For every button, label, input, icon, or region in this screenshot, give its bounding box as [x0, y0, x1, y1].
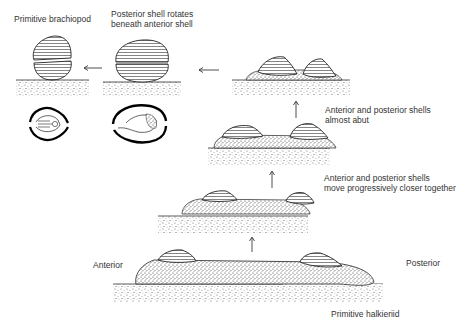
label-rotates-line1: Posterior shell rotates: [111, 9, 193, 19]
label-closer-line1: Anterior and posterior shells: [324, 173, 430, 183]
brachiopod-side-view: [16, 36, 89, 96]
halkieriid-side-view: [113, 250, 383, 302]
arrow-left-2: [199, 68, 219, 73]
rotating-shells-side-view: [103, 40, 181, 96]
arrow-up-1: [250, 237, 255, 252]
label-abut-line1: Anterior and posterior shells: [325, 105, 431, 115]
label-primitive-halkieriid: Primitive halkieriid: [331, 309, 400, 319]
arrow-left-1: [84, 66, 102, 71]
almost-abut-side-view: [232, 57, 350, 95]
arrow-up-3: [294, 101, 299, 118]
label-posterior: Posterior: [406, 258, 440, 268]
brachiopod-cross-section: [30, 108, 68, 140]
label-primitive-brachiopod: Primitive brachiopod: [14, 14, 91, 24]
closer-together-side-view: [158, 191, 314, 233]
label-abut-line2: almost abut: [325, 115, 369, 125]
rotating-cross-section: [113, 105, 166, 142]
arrow-up-2: [270, 171, 275, 188]
label-anterior: Anterior: [93, 260, 123, 270]
closer-side-view: [208, 124, 336, 165]
label-closer-line2: move progressively closer together: [324, 183, 456, 193]
label-rotates-line2: beneath anterior shell: [111, 19, 193, 29]
